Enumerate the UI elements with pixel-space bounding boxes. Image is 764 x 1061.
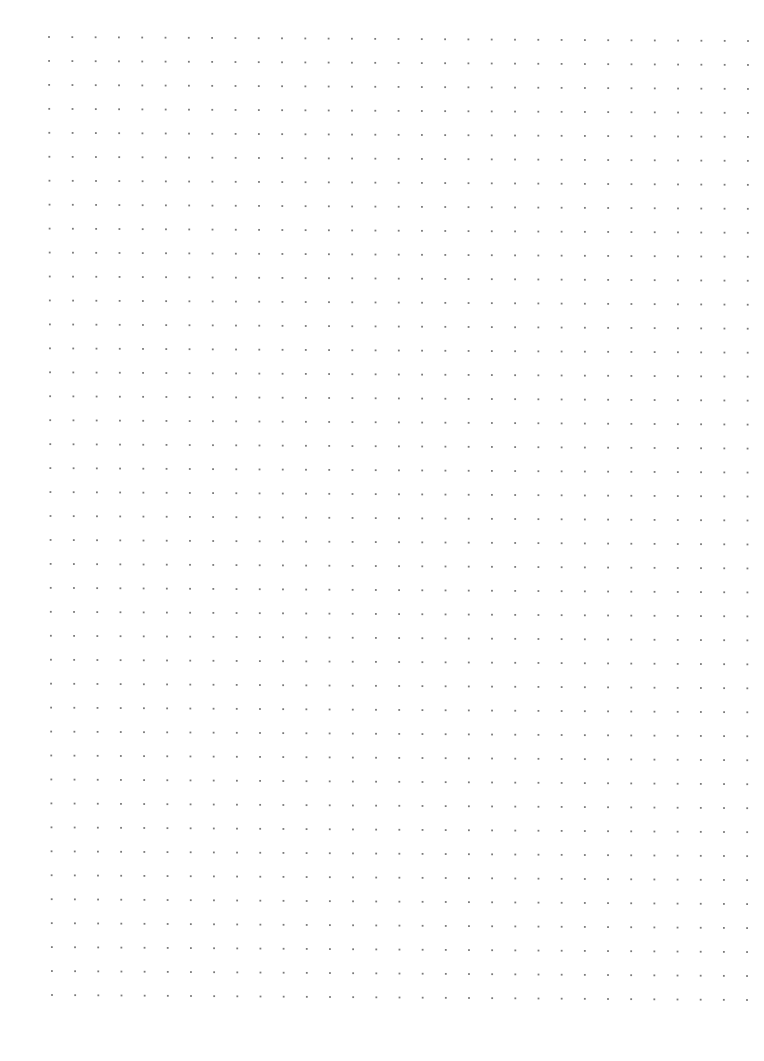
grid-dot xyxy=(561,255,563,257)
grid-dot xyxy=(259,540,261,542)
grid-dot xyxy=(236,852,238,854)
grid-dot xyxy=(607,782,609,784)
grid-dot xyxy=(445,518,447,520)
grid-dot xyxy=(259,660,261,662)
grid-dot xyxy=(491,806,493,808)
grid-dot xyxy=(281,253,283,255)
grid-dot xyxy=(584,519,586,521)
grid-dot xyxy=(584,566,586,568)
grid-dot xyxy=(97,779,99,781)
grid-dot xyxy=(49,467,51,469)
grid-dot xyxy=(468,158,470,160)
grid-dot xyxy=(375,996,377,998)
grid-dot xyxy=(654,543,656,545)
grid-dot xyxy=(166,444,168,446)
grid-dot xyxy=(724,184,726,186)
grid-dot xyxy=(747,304,749,306)
grid-dot xyxy=(213,708,215,710)
grid-dot xyxy=(561,87,563,89)
grid-dot xyxy=(50,659,52,661)
grid-dot xyxy=(352,972,354,974)
grid-dot xyxy=(142,468,144,470)
grid-dot xyxy=(95,36,97,38)
grid-dot xyxy=(514,638,516,640)
grid-dot xyxy=(491,135,493,137)
grid-dot xyxy=(607,447,609,449)
grid-dot xyxy=(607,663,609,665)
grid-dot xyxy=(491,614,493,616)
grid-dot xyxy=(537,327,539,329)
grid-dot xyxy=(700,615,702,617)
grid-dot xyxy=(514,878,516,880)
grid-dot xyxy=(72,84,74,86)
grid-dot xyxy=(375,517,377,519)
grid-dot xyxy=(654,375,656,377)
grid-dot xyxy=(468,86,470,88)
grid-dot xyxy=(188,205,190,207)
grid-dot xyxy=(445,781,447,783)
grid-dot xyxy=(421,206,423,208)
grid-dot xyxy=(468,446,470,448)
grid-dot xyxy=(96,420,98,422)
grid-dot xyxy=(328,301,330,303)
grid-dot xyxy=(422,877,424,879)
grid-dot xyxy=(701,40,703,42)
grid-dot xyxy=(352,589,354,591)
grid-dot xyxy=(375,206,377,208)
grid-dot xyxy=(677,88,679,90)
grid-dot xyxy=(328,229,330,231)
grid-dot xyxy=(189,444,191,446)
grid-dot xyxy=(514,758,516,760)
grid-dot xyxy=(700,471,702,473)
grid-dot xyxy=(118,156,120,158)
grid-dot xyxy=(468,230,470,232)
grid-dot xyxy=(96,587,98,589)
grid-dot xyxy=(235,205,237,207)
grid-dot xyxy=(49,204,51,206)
grid-dot xyxy=(468,757,470,759)
grid-dot xyxy=(654,159,656,161)
grid-dot xyxy=(654,591,656,593)
grid-dot xyxy=(166,731,168,733)
grid-dot xyxy=(747,160,749,162)
grid-dot xyxy=(213,660,215,662)
grid-dot xyxy=(97,899,99,901)
grid-dot xyxy=(747,40,749,42)
grid-dot xyxy=(584,279,586,281)
grid-dot xyxy=(561,39,563,41)
grid-dot xyxy=(607,495,609,497)
grid-dot xyxy=(398,422,400,424)
grid-dot xyxy=(281,133,283,135)
grid-dot xyxy=(165,396,167,398)
grid-dot xyxy=(700,831,702,833)
grid-dot xyxy=(468,374,470,376)
grid-dot xyxy=(677,783,679,785)
grid-dot xyxy=(73,419,75,421)
grid-dot xyxy=(375,493,377,495)
grid-dot xyxy=(561,399,563,401)
grid-dot xyxy=(213,923,215,925)
grid-dot xyxy=(700,375,702,377)
grid-dot xyxy=(305,277,307,279)
grid-dot xyxy=(747,616,749,618)
grid-dot xyxy=(421,62,423,64)
grid-dot xyxy=(120,635,122,637)
grid-dot xyxy=(584,255,586,257)
grid-dot xyxy=(561,878,563,880)
grid-dot xyxy=(631,87,633,89)
grid-dot xyxy=(607,303,609,305)
grid-dot xyxy=(677,399,679,401)
grid-dot xyxy=(607,351,609,353)
grid-dot xyxy=(491,638,493,640)
grid-dot xyxy=(584,423,586,425)
grid-dot xyxy=(282,469,284,471)
grid-dot xyxy=(561,758,563,760)
grid-dot xyxy=(73,635,75,637)
grid-dot xyxy=(95,180,97,182)
grid-dot xyxy=(746,855,748,857)
grid-dot xyxy=(95,132,97,134)
grid-dot xyxy=(142,300,144,302)
grid-dot xyxy=(166,636,168,638)
grid-dot xyxy=(51,898,53,900)
grid-dot xyxy=(538,662,540,664)
